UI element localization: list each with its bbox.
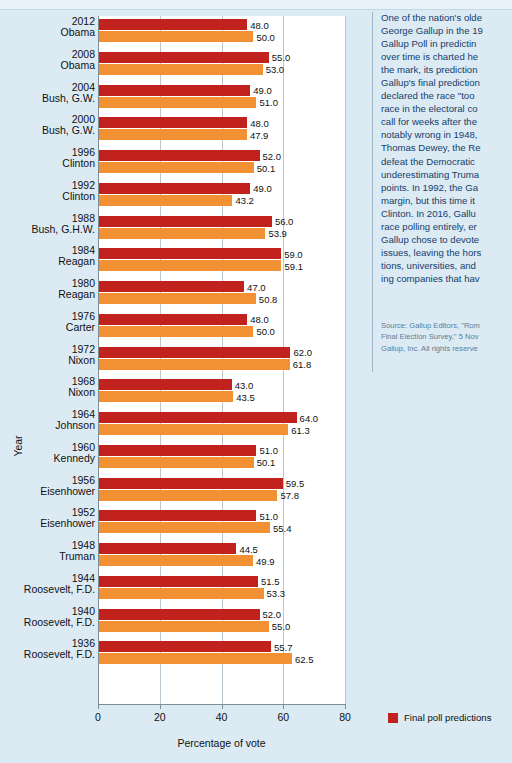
row-label: 2012Obama [0,16,95,38]
bar-value-actual: 55.0 [272,621,291,632]
row-bars: 55.762.5 [99,641,345,664]
row-bars: 64.061.3 [99,412,345,435]
bar-actual: 62.5 [99,653,292,664]
row-label-candidate: Nixon [0,355,95,366]
bar-value-prediction: 59.5 [286,478,305,489]
bar-actual: 55.4 [99,522,270,533]
bar-value-prediction: 59.0 [284,248,303,259]
x-tick-label-80: 80 [330,711,360,723]
bar-prediction: 51.0 [99,445,256,456]
row-label-candidate: Roosevelt, F.D. [0,617,95,628]
x-tick-label-60: 60 [268,711,298,723]
sidebar-text-line: race polling entirely, er [381,220,512,233]
bar-prediction: 56.0 [99,216,272,227]
bar-actual: 50.1 [99,162,254,173]
bar-actual: 53.3 [99,588,264,599]
bar-value-actual: 57.8 [280,490,299,501]
sidebar-text-line: Clinton. In 2016, Gallu [381,207,512,220]
bar-prediction: 59.0 [99,248,281,259]
row-label-candidate: Nixon [0,387,95,398]
row-label-candidate: Bush, G.H.W. [0,224,95,235]
bar-value-prediction: 62.0 [293,347,312,358]
bar-row: 2008Obama55.053.0 [0,49,345,82]
x-tick-0 [98,704,99,709]
row-bars: 48.047.9 [99,117,345,140]
sidebar-text-line: issues, leaving the hors [381,246,512,259]
bar-row: 1996Clinton52.050.1 [0,147,345,180]
bar-actual: 61.3 [99,424,288,435]
bar-row: 1940Roosevelt, F.D.52.055.0 [0,606,345,639]
bar-prediction: 49.0 [99,85,250,96]
row-label-candidate: Bush, G.W. [0,93,95,104]
row-label-candidate: Eisenhower [0,486,95,497]
bar-value-actual: 62.5 [295,653,314,664]
bar-row: 1964Johnson64.061.3 [0,409,345,442]
bar-row: 2012Obama48.050.0 [0,16,345,49]
chart-panel: 2012Obama48.050.02008Obama55.053.02004Bu… [0,10,345,763]
row-label-year: 1988 [0,213,95,224]
bar-prediction: 43.0 [99,379,232,390]
bar-row: 1960Kennedy51.050.1 [0,442,345,475]
bar-value-prediction: 51.0 [259,510,278,521]
row-label: 2000Bush, G.W. [0,114,95,136]
bar-prediction: 49.0 [99,183,250,194]
bar-value-prediction: 52.0 [263,150,282,161]
row-bars: 48.050.0 [99,19,345,42]
row-label: 1988Bush, G.H.W. [0,213,95,235]
sidebar-divider [372,12,373,372]
row-bars: 51.055.4 [99,510,345,533]
row-bars: 44.549.9 [99,543,345,566]
row-label-candidate: Obama [0,60,95,71]
bar-prediction: 48.0 [99,314,247,325]
bar-row: 1980Reagan47.050.8 [0,278,345,311]
bar-prediction: 55.0 [99,52,269,63]
bar-value-actual: 53.0 [266,64,285,75]
sidebar-text-line: defeat the Democratic [381,155,512,168]
sidebar-text-line: Gallup Poll in predictin [381,37,512,50]
bar-value-prediction: 52.0 [263,609,282,620]
bar-value-prediction: 47.0 [247,281,266,292]
bar-value-prediction: 56.0 [275,216,294,227]
row-label: 1984Reagan [0,245,95,267]
x-tick-60 [283,704,284,709]
bar-value-prediction: 64.0 [300,412,319,423]
bar-value-actual: 50.0 [256,31,275,42]
bar-actual: 43.2 [99,195,232,206]
bar-prediction: 59.5 [99,478,283,489]
bar-actual: 57.8 [99,490,277,501]
bar-value-actual: 43.2 [235,195,254,206]
row-bars: 55.053.0 [99,52,345,75]
row-label-year: 1956 [0,475,95,486]
bar-value-prediction: 49.0 [253,183,272,194]
sidebar-text-line: Gallup chose to devote [381,233,512,246]
bar-rows: 2012Obama48.050.02008Obama55.053.02004Bu… [0,16,345,704]
legend-label-prediction: Final poll predictions [404,712,491,723]
bar-prediction: 52.0 [99,609,260,620]
row-label-candidate: Eisenhower [0,518,95,529]
bar-prediction: 52.0 [99,150,260,161]
row-bars: 49.051.0 [99,85,345,108]
sidebar-text-line: over time is charted he [381,50,512,63]
bar-actual: 50.8 [99,293,256,304]
row-label-year: 1972 [0,344,95,355]
bar-value-actual: 50.0 [256,326,275,337]
x-tick-40 [222,704,223,709]
bar-actual: 59.1 [99,260,281,271]
bar-value-prediction: 48.0 [250,19,269,30]
sidebar-text-line: tions, universities, and [381,259,512,272]
row-label: 2008Obama [0,49,95,71]
row-bars: 62.061.8 [99,347,345,370]
sidebar-text-line: underestimating Truma [381,168,512,181]
x-tick-label-0: 0 [83,711,113,723]
bar-value-actual: 53.3 [267,588,286,599]
bar-row: 1976Carter48.050.0 [0,311,345,344]
bar-actual: 50.1 [99,457,254,468]
row-label: 1940Roosevelt, F.D. [0,606,95,628]
bar-value-prediction: 48.0 [250,314,269,325]
sidebar-text-line: One of the nation's olde [381,11,512,24]
bar-row: 1952Eisenhower51.055.4 [0,507,345,540]
bar-prediction: 48.0 [99,117,247,128]
bar-actual: 43.5 [99,391,233,402]
bar-value-actual: 47.9 [250,129,269,140]
bar-value-prediction: 51.0 [259,445,278,456]
